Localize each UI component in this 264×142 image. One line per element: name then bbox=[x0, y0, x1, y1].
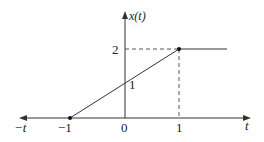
y-tick-2: 2 bbox=[112, 42, 119, 57]
point-1-2 bbox=[177, 47, 181, 51]
x-tick-1: 1 bbox=[176, 120, 183, 135]
x-axis-label: t bbox=[245, 118, 249, 133]
signal-plot: x(t) 2 1 −t −1 0 1 t bbox=[0, 0, 264, 142]
x-axis-neg-label: −t bbox=[14, 120, 27, 135]
x-tick-0: 0 bbox=[121, 120, 128, 135]
y-axis-label: x(t) bbox=[128, 9, 146, 23]
x-tick-minus1: −1 bbox=[58, 120, 72, 135]
up-arrow-icon bbox=[122, 11, 128, 19]
signal-curve bbox=[70, 49, 227, 118]
y-tick-1: 1 bbox=[129, 77, 136, 92]
